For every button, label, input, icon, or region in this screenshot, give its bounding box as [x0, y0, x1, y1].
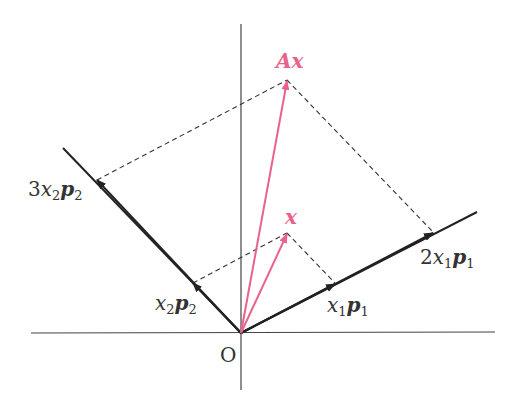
dashed-construction-lines: [97, 80, 433, 283]
2x1p1-arrow: [241, 233, 433, 333]
Ax-label: Ax: [274, 49, 305, 73]
origin-label: O: [220, 343, 236, 367]
x1p1-label: x1p1: [327, 293, 369, 319]
eigenvector-diagram: O Ax x 3x2p2 x2p2 x1p1 2x1p1: [0, 0, 522, 407]
2x1p1-label: 2x1p1: [420, 245, 475, 271]
x-vector: [241, 234, 287, 333]
Ax-vector: [241, 81, 287, 333]
3x2p2-label: 3x2p2: [28, 177, 83, 203]
x-axis: [31, 332, 495, 333]
x2p2-label: x2p2: [155, 291, 197, 317]
x-label: x: [284, 205, 298, 229]
